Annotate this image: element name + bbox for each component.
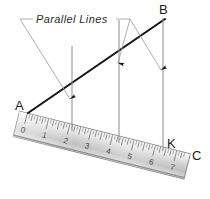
leader-to-line-4 <box>118 19 130 63</box>
ruler: 0 1 2 3 4 5 6 7 <box>13 111 190 179</box>
callout-leaders <box>20 19 161 99</box>
parallel-lines-figure: 0 1 2 3 4 5 6 7 <box>0 0 210 199</box>
point-label-A: A <box>15 98 24 113</box>
leader-to-line-6 <box>130 19 161 70</box>
point-label-B: B <box>159 2 168 17</box>
leader-to-line-2 <box>20 19 70 99</box>
callout-label: Parallel Lines <box>36 13 108 25</box>
geometry-diagram: 0 1 2 3 4 5 6 7 <box>0 0 210 199</box>
ruler-highlight <box>13 111 190 179</box>
point-label-C: C <box>192 148 201 163</box>
point-label-K: K <box>167 136 176 151</box>
line-AB <box>28 19 165 113</box>
